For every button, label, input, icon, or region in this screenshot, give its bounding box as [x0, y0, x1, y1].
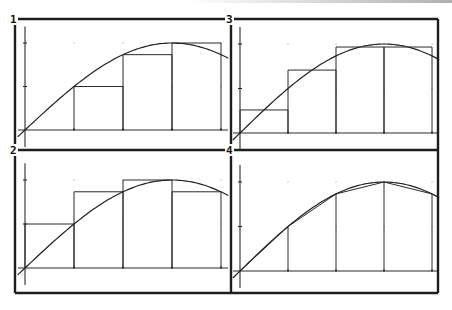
- riemann-rectangle: [172, 192, 221, 268]
- grid-dot: [74, 180, 75, 181]
- grid-dot: [221, 180, 222, 181]
- riemann-rectangle: [74, 192, 123, 268]
- graph-pane-2[interactable]: [18, 163, 229, 285]
- grid-dot: [336, 44, 337, 45]
- pane-label-1[interactable]: 1: [10, 13, 17, 26]
- pane-label-2[interactable]: 2: [10, 144, 17, 157]
- riemann-rectangle: [336, 47, 384, 133]
- riemann-rectangle: [123, 180, 172, 268]
- split-graph-screen: 1 2 3 4: [0, 0, 452, 310]
- pane-label-3[interactable]: 3: [226, 13, 233, 26]
- graph-pane-3[interactable]: [233, 27, 439, 150]
- grid-dot: [74, 43, 75, 44]
- grid-dot: [288, 182, 289, 183]
- grid-dot: [123, 43, 124, 44]
- riemann-rectangle: [172, 43, 221, 130]
- grid-dot: [432, 182, 433, 183]
- grid-dot: [336, 182, 337, 183]
- graph-pane-4[interactable]: [233, 165, 439, 288]
- riemann-rectangle: [240, 110, 288, 133]
- riemann-rectangle: [123, 55, 172, 130]
- graph-panes: [18, 26, 440, 288]
- pane-labels: 1 2 3 4: [9, 13, 234, 157]
- riemann-rectangle: [384, 47, 432, 133]
- graph-pane-1[interactable]: [18, 26, 229, 147]
- grid-dot: [432, 44, 433, 45]
- riemann-rectangle: [288, 70, 336, 133]
- riemann-rectangle: [74, 87, 123, 131]
- pane-label-4[interactable]: 4: [226, 144, 233, 157]
- grid-dot: [288, 44, 289, 45]
